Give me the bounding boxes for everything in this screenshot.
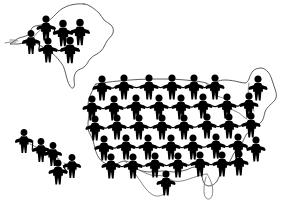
region-figures-hawaii — [15, 129, 81, 185]
us-population-pictogram — [0, 0, 283, 205]
alaska-region — [5, 4, 113, 88]
paper-doll-silhouette — [32, 138, 50, 162]
paper-doll-figure — [63, 154, 81, 178]
paper-doll-figure — [32, 138, 50, 162]
paper-doll-silhouette — [15, 129, 33, 153]
paper-doll-silhouette — [63, 154, 81, 178]
map-canvas — [0, 0, 283, 205]
paper-doll-silhouette — [246, 136, 265, 161]
paper-doll-figure — [15, 129, 33, 153]
paper-doll-figure — [156, 170, 175, 195]
hand-hold-link — [120, 166, 124, 167]
paper-doll-silhouette — [156, 170, 175, 195]
paper-doll-figure — [246, 136, 265, 161]
